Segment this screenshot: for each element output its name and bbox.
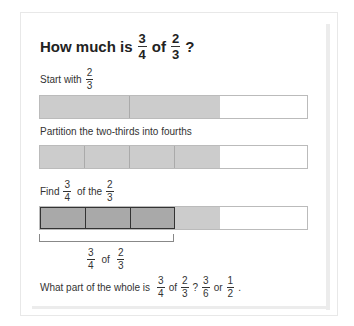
fraction: 23	[117, 248, 125, 271]
numerator: 2	[181, 276, 189, 288]
bar-segment-selected	[40, 207, 85, 229]
denominator: 4	[64, 192, 70, 203]
bar-segment-empty	[220, 96, 307, 118]
step2-label: Partition the two-thirds into fourths	[40, 126, 192, 137]
card-shadow-right	[326, 24, 330, 310]
numerator: 2	[106, 180, 114, 192]
step1-label: Start with 23	[40, 68, 95, 91]
fraction: 23	[106, 180, 114, 203]
bar-thirds	[39, 95, 308, 119]
bracket	[39, 234, 174, 242]
numerator: 2	[117, 248, 125, 260]
of-text: of	[169, 282, 177, 293]
numerator: 3	[87, 248, 95, 260]
fraction: 34	[138, 32, 147, 61]
step3-text: Find	[40, 186, 59, 197]
fraction: 34	[63, 180, 71, 203]
bar-segment-selected	[85, 207, 130, 229]
numerator: 3	[157, 276, 165, 288]
bar-segment-selected	[130, 207, 175, 229]
fraction: 12	[227, 276, 235, 299]
denominator: 3	[107, 192, 113, 203]
denominator: 4	[88, 260, 94, 271]
denominator: 4	[139, 47, 146, 61]
answer-line: What part of the whole is 34 of 23 ? 36 …	[40, 276, 241, 299]
bracket-label: 34 of 23	[85, 248, 126, 271]
denominator: 2	[228, 288, 234, 299]
denominator: 6	[203, 288, 209, 299]
step3-text: of the	[77, 186, 102, 197]
answer-text: What part of the whole is	[40, 282, 150, 293]
bar-segment-filled	[175, 146, 220, 168]
bar-segment-filled	[85, 146, 130, 168]
numerator: 3	[202, 276, 210, 288]
numerator: 2	[171, 32, 180, 47]
bar-segment-filled	[130, 146, 175, 168]
denominator: 3	[87, 80, 93, 91]
bar-fourths	[39, 145, 308, 169]
of-text: of	[102, 254, 110, 265]
bar-segment-filled	[40, 96, 130, 118]
fraction: 23	[171, 32, 180, 61]
fraction: 36	[202, 276, 210, 299]
bar-segment-filled	[175, 207, 220, 229]
bar-segment-empty	[220, 207, 307, 229]
bar-segment-filled	[130, 96, 220, 118]
fraction: 23	[86, 68, 94, 91]
bar-segment-empty	[220, 146, 307, 168]
bar-segment-filled	[40, 146, 85, 168]
of-text: of	[152, 38, 166, 55]
step2-text: Partition the two-thirds into fourths	[40, 126, 192, 137]
step3-label: Find 34 of the 23	[40, 180, 116, 203]
or-text: or	[214, 282, 223, 293]
denominator: 4	[158, 288, 164, 299]
fraction: 34	[157, 276, 165, 299]
denominator: 3	[182, 288, 188, 299]
denominator: 3	[172, 47, 179, 61]
fraction: 23	[181, 276, 189, 299]
numerator: 1	[227, 276, 235, 288]
bar-three-fourths	[39, 206, 308, 230]
fraction: 34	[87, 248, 95, 271]
denominator: 3	[118, 260, 124, 271]
question-mark: ?	[193, 282, 199, 293]
page-title: How much is 34 of 23 ?	[40, 32, 194, 61]
period: .	[238, 282, 241, 293]
question-mark: ?	[185, 38, 194, 55]
numerator: 2	[86, 68, 94, 80]
numerator: 3	[138, 32, 147, 47]
numerator: 3	[63, 180, 71, 192]
title-text: How much is	[40, 38, 133, 55]
card-shadow-bottom	[32, 306, 330, 309]
step1-text: Start with	[40, 74, 82, 85]
